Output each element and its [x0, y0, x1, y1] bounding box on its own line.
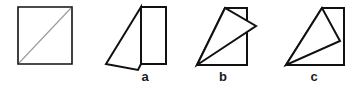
option-a-label: a — [135, 70, 155, 84]
option-c-label: c — [304, 70, 324, 84]
option-a-rectangle — [141, 7, 166, 64]
original-square-group — [18, 7, 72, 64]
paper-folding-figure-sheet: a b c — [0, 0, 359, 92]
option-b-label: b — [213, 70, 233, 84]
